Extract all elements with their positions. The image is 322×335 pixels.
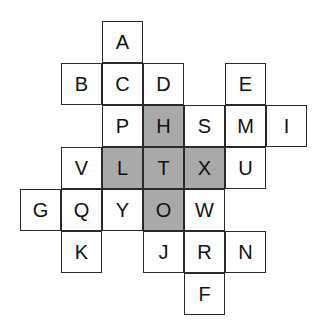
grid-cell-e: E [225,63,266,105]
grid-cell-i: I [266,105,307,147]
grid-cell-s: S [184,105,225,147]
letter-grid-puzzle: ABCDEPHSMIVLTXUGQYOWKJRNF [0,0,322,335]
grid-cell-r: R [184,231,225,273]
grid-cell-c: C [102,63,143,105]
grid-cell-t-shaded: T [143,147,184,189]
grid-cell-g: G [20,189,61,231]
grid-cell-u: U [225,147,266,189]
grid-cell-q: Q [61,189,102,231]
grid-cell-d: D [143,63,184,105]
grid-cell-j: J [143,231,184,273]
grid-cell-x-shaded: X [184,147,225,189]
grid-cell-a: A [102,21,143,63]
grid-cell-b: B [61,63,102,105]
grid-cell-f: F [184,273,225,315]
grid-cell-o-shaded: O [143,189,184,231]
grid-cell-l-shaded: L [102,147,143,189]
grid-cell-y: Y [102,189,143,231]
grid-cell-w: W [184,189,225,231]
grid-cell-p: P [102,105,143,147]
grid-cell-v: V [61,147,102,189]
grid-cell-m: M [225,105,266,147]
grid-cell-k: K [61,231,102,273]
grid-cell-n: N [225,231,266,273]
grid-cell-h-shaded: H [143,105,184,147]
